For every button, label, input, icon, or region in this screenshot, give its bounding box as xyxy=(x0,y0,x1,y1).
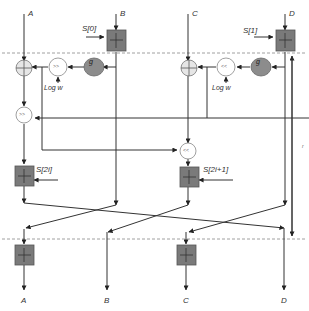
shift-right-mid-label: >> xyxy=(19,112,25,117)
output-label-a: A xyxy=(21,297,26,305)
adder-bottom-c xyxy=(177,245,196,265)
shift-left-mid-label: << xyxy=(183,148,189,153)
log-w-right-label: Log w xyxy=(212,84,231,91)
output-label-d: D xyxy=(281,297,287,305)
input-label-c: C xyxy=(192,10,198,18)
xor-left xyxy=(16,60,32,76)
input-label-d: D xyxy=(289,10,295,18)
g-right-label: g xyxy=(256,58,260,65)
adder-s2i xyxy=(15,166,34,186)
output-label-c: C xyxy=(183,297,189,305)
output-label-b: B xyxy=(104,297,109,305)
g-left-label: g xyxy=(89,58,93,65)
g-function-right xyxy=(251,58,271,76)
log-w-left-label: Log w xyxy=(44,84,63,91)
xor-right xyxy=(181,60,197,76)
shift-right-top-label: >> xyxy=(53,64,59,69)
g-function-left xyxy=(84,58,104,76)
adder-s2i1 xyxy=(180,167,199,187)
subkey-s2i1-label: S[2i+1] xyxy=(203,166,228,174)
subkey-s1-label: S[1] xyxy=(243,27,257,35)
rc6-round-diagram: A B C D S[0] S[1] S[2i] S[2i+1] g g >> <… xyxy=(0,0,309,311)
adder-bottom-a xyxy=(15,245,34,265)
adder-s1 xyxy=(276,30,295,51)
subkey-s0-label: S[0] xyxy=(82,25,96,33)
shift-left-top-label: << xyxy=(221,64,227,69)
input-label-a: A xyxy=(28,10,33,18)
diagram-canvas xyxy=(0,0,309,311)
input-label-b: B xyxy=(120,10,125,18)
subkey-s2i-label: S[2i] xyxy=(36,166,52,174)
adder-s0 xyxy=(107,30,126,51)
side-label: r xyxy=(302,144,304,149)
